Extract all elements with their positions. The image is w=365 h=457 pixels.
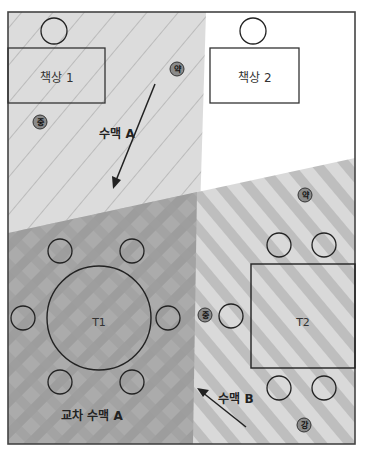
desk-2-label: 책상 2 xyxy=(238,68,271,85)
desk-1-label: 책상 1 xyxy=(40,68,73,85)
overlap-zone-label: 교차 수맥 A xyxy=(61,406,123,423)
floor-plan: 책상 1 책상 2 T1 T2 수맥 A 수맥 B 교차 수맥 A 약 중 약 … xyxy=(0,0,365,457)
table-t2-label: T2 xyxy=(296,316,310,329)
intensity-badge-strong: 강 xyxy=(297,418,312,433)
table-t1-label: T1 xyxy=(92,316,106,329)
intensity-badge-medium: 중 xyxy=(198,308,213,323)
intensity-badge-weak: 약 xyxy=(170,62,185,77)
intensity-badge-medium: 중 xyxy=(33,115,48,130)
zone-a-label: 수맥 A xyxy=(99,124,134,141)
intensity-badge-weak: 약 xyxy=(298,188,313,203)
zone-b-label: 수맥 B xyxy=(218,389,253,406)
